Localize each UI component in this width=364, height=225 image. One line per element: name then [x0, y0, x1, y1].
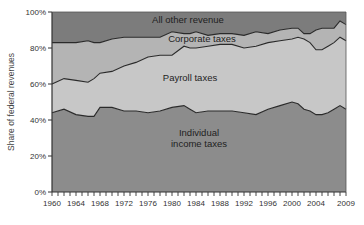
- series-label: Individual: [179, 127, 219, 138]
- y-axis-ticks: 0%20%40%60%80%100%: [26, 8, 52, 197]
- x-tick-label: 1964: [67, 199, 85, 208]
- series-label: All other revenue: [152, 14, 224, 25]
- x-tick-label: 1960: [43, 199, 61, 208]
- series-label: Payroll taxes: [163, 72, 218, 83]
- x-tick-label: 1984: [187, 199, 205, 208]
- x-tick-label: 2004: [307, 199, 325, 208]
- series-label: Corporate taxes: [168, 33, 236, 44]
- x-tick-label: 1988: [211, 199, 229, 208]
- y-tick-label: 100%: [26, 8, 46, 17]
- chart-canvas: Individualincome taxesPayroll taxesCorpo…: [0, 0, 364, 225]
- x-tick-label: 1972: [115, 199, 133, 208]
- y-tick-label: 0%: [34, 188, 46, 197]
- x-tick-label: 1976: [139, 199, 157, 208]
- x-tick-label: 1996: [259, 199, 277, 208]
- x-tick-label: 2009: [337, 199, 355, 208]
- x-tick-label: 2000: [283, 199, 301, 208]
- stacked-area-chart: Individualincome taxesPayroll taxesCorpo…: [0, 0, 364, 225]
- y-tick-label: 60%: [30, 80, 46, 89]
- x-tick-label: 1968: [91, 199, 109, 208]
- x-tick-label: 1992: [235, 199, 253, 208]
- x-tick-label: 1980: [163, 199, 181, 208]
- y-tick-label: 40%: [30, 116, 46, 125]
- series-label: income taxes: [171, 138, 227, 149]
- y-tick-label: 80%: [30, 44, 46, 53]
- y-tick-label: 20%: [30, 152, 46, 161]
- x-axis-ticks: 1960196419681972197619801984198819921996…: [43, 192, 355, 208]
- y-axis-label: Share of federal revenues: [6, 53, 16, 151]
